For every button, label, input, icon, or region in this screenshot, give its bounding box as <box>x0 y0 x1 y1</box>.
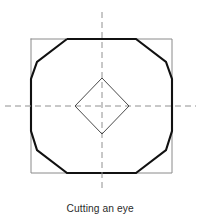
figure-root: Cutting an eye <box>0 0 201 224</box>
figure-caption: Cutting an eye <box>67 202 134 215</box>
figure-caption-row: Cutting an eye <box>0 198 201 216</box>
technical-drawing <box>0 0 201 224</box>
